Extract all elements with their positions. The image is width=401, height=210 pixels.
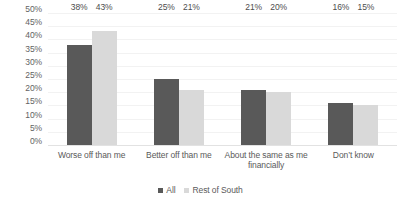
plot-area: 38%43%25%21%21%20%16%15% (48, 13, 397, 145)
bar-column: 15% (353, 13, 378, 145)
bar-value-label: 20% (270, 3, 287, 12)
y-axis-tick-label: 5% (30, 124, 42, 133)
bar-column: 20% (266, 13, 291, 145)
legend-item[interactable]: All (158, 186, 175, 195)
bar[interactable]: 20% (266, 92, 291, 145)
y-axis-tick-label: 0% (30, 137, 42, 146)
chart-legend: AllRest of South (0, 186, 401, 195)
bar[interactable]: 38% (67, 45, 92, 145)
bar-column: 16% (328, 13, 353, 145)
bar[interactable]: 21% (179, 90, 204, 145)
legend-swatch-icon (184, 188, 189, 193)
bar-chart: 50%45%40%35%30%25%20%15%10%5%0% 38%43%25… (0, 0, 401, 210)
x-axis-categories: Worse off than meBetter off than meAbout… (48, 150, 397, 176)
x-axis-category-label: Worse off than me (48, 150, 135, 176)
bar-column: 38% (67, 13, 92, 145)
bar-value-label: 43% (96, 3, 113, 12)
y-axis-tick-label: 15% (25, 97, 42, 106)
legend-label: All (166, 186, 175, 195)
y-axis-tick-label: 45% (25, 18, 42, 27)
bar[interactable]: 16% (328, 103, 353, 145)
bar-value-label: 38% (71, 3, 88, 12)
bar-groups: 38%43%25%21%21%20%16%15% (48, 13, 397, 145)
bar-column: 43% (92, 13, 117, 145)
y-axis: 50%45%40%35%30%25%20%15%10%5%0% (0, 9, 46, 150)
y-axis-tick-label: 40% (25, 31, 42, 40)
axis-baseline (48, 145, 397, 146)
y-axis-tick-label: 30% (25, 58, 42, 67)
bar-group: 16%15% (310, 13, 397, 145)
bar[interactable]: 15% (353, 105, 378, 145)
x-axis-category-label: Better off than me (135, 150, 222, 176)
bar-value-label: 25% (158, 3, 175, 12)
legend-item[interactable]: Rest of South (184, 186, 242, 195)
bar-value-label: 16% (333, 3, 350, 12)
bar[interactable]: 21% (241, 90, 266, 145)
bar-group: 38%43% (48, 13, 135, 145)
bar-column: 21% (241, 13, 266, 145)
bar-column: 21% (179, 13, 204, 145)
x-axis-category-label: Don’t know (310, 150, 397, 176)
bar[interactable]: 25% (154, 79, 179, 145)
bar-value-label: 21% (245, 3, 262, 12)
legend-label: Rest of South (192, 186, 242, 195)
x-axis-category-label: About the same as me financially (223, 150, 310, 176)
y-axis-tick-label: 50% (25, 5, 42, 14)
bar-column: 25% (154, 13, 179, 145)
bar-value-label: 15% (358, 3, 375, 12)
bar-value-label: 21% (183, 3, 200, 12)
y-axis-tick-label: 20% (25, 84, 42, 93)
y-axis-tick-label: 10% (25, 111, 42, 120)
legend-swatch-icon (158, 188, 163, 193)
bar-group: 25%21% (135, 13, 222, 145)
bar[interactable]: 43% (92, 31, 117, 145)
y-axis-tick-label: 35% (25, 45, 42, 54)
y-axis-tick-label: 25% (25, 71, 42, 80)
bar-group: 21%20% (223, 13, 310, 145)
